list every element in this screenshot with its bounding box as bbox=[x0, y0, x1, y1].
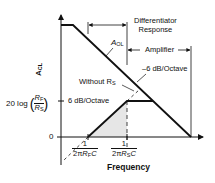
gain-prefix: 20 log bbox=[6, 99, 28, 108]
rs-den-suffix: C bbox=[130, 149, 135, 158]
aol-sub: OL bbox=[116, 41, 123, 47]
neg-slope-label: –6 dB/Octave bbox=[142, 64, 187, 73]
gain-fraction: RF RS bbox=[34, 94, 43, 113]
gain-numerator: RF bbox=[35, 94, 44, 103]
without-rs-leader bbox=[122, 85, 134, 91]
y-axis-label: ACL bbox=[34, 63, 45, 76]
bode-diagram bbox=[0, 0, 215, 183]
rs-den-prefix: 2π bbox=[112, 149, 121, 158]
x-tick-rs-num: 1 bbox=[122, 140, 126, 148]
without-rs-label: Without RS bbox=[79, 77, 116, 88]
without-rs-main: Without R bbox=[79, 77, 112, 86]
x-tick-rf: 1 2πRFC bbox=[72, 140, 98, 160]
neg-slope-leader bbox=[137, 74, 146, 82]
differentiator-line1: Differentiator bbox=[134, 16, 177, 25]
x-tick-rf-den: 2πRFC bbox=[72, 148, 98, 160]
x-axis-label: Frequency bbox=[107, 163, 150, 172]
x-tick-rf-num: 1 bbox=[83, 140, 87, 148]
x-tick-rs: 1 2πRSC bbox=[111, 140, 137, 160]
pos-slope-label: 6 dB/Octave bbox=[68, 96, 109, 105]
differentiator-line2: Response bbox=[134, 25, 177, 34]
rising-extension-high bbox=[127, 90, 139, 101]
without-rs-sub: S bbox=[112, 80, 116, 86]
aol-leader bbox=[106, 48, 113, 56]
y-axis-label-sub: CL bbox=[37, 63, 43, 70]
amplifier-label: Amplifier bbox=[144, 45, 175, 54]
rf-den-prefix: 2π bbox=[73, 149, 82, 158]
gain-denominator: RS bbox=[34, 103, 43, 113]
y-tick-gain: 20 log ( RF RS ) bbox=[6, 94, 48, 113]
aol-label: AOL bbox=[111, 38, 124, 49]
y-axis-label-main: A bbox=[34, 70, 43, 76]
gain-paren-close: ) bbox=[44, 97, 49, 111]
x-tick-rs-den: 2πRSC bbox=[111, 148, 137, 160]
y-tick-zero: 0 bbox=[49, 132, 53, 141]
rf-den-suffix: C bbox=[91, 149, 96, 158]
differentiator-response-label: Differentiator Response bbox=[134, 16, 177, 34]
